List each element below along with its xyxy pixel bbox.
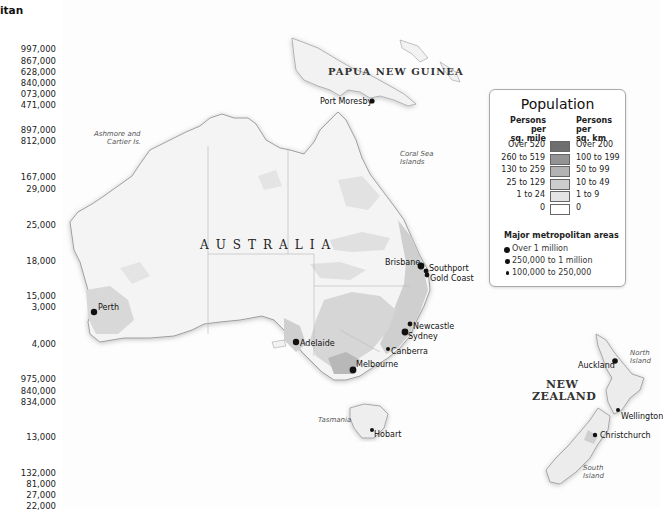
label-perth[interactable]: Perth [98,303,119,312]
table-value: 18,000 [26,256,56,266]
label-new-zealand-2: ZEALAND [532,390,596,403]
legend-class-mile: 0 [540,203,545,212]
table-value: 27,000 [26,490,56,500]
table-value: 81,000 [26,479,56,489]
label-auckland[interactable]: Auckland [578,361,615,370]
legend-class-km: 10 to 49 [576,178,609,187]
label-wellington[interactable]: Wellington [621,412,663,421]
new-britain-island [400,40,428,62]
table-value: 167,000 [21,172,56,182]
north-island-landmass [596,334,644,414]
legend-swatch [550,191,570,202]
label-adelaide[interactable]: Adelaide [300,339,335,348]
label-ashmore-1: Ashmore and [94,130,141,138]
label-australia: AUSTRALIA [200,238,337,252]
table-value: 812,000 [21,136,56,146]
table-value: 997,000 [21,44,56,54]
metro-dot-medium-icon [505,259,510,264]
legend-class-km: 1 to 9 [576,190,599,199]
table-header: itan [0,4,23,16]
city-dot-perth[interactable] [91,309,97,315]
legend-class-mile: Over 520 [508,140,545,149]
legend-class-mile: 260 to 519 [501,153,545,162]
label-coral-sea-1: Coral Sea [400,150,434,158]
legend-title: Population [490,96,625,112]
label-newcastle[interactable]: Newcastle [413,322,454,331]
label-north-island-2: Island [630,357,651,365]
legend-col-km-1: Persons per [576,116,625,134]
metro-population-table: itan 997,000 867,000 628,000 840,000 073… [0,0,62,508]
label-melbourne[interactable]: Melbourne [356,360,398,369]
city-dot-wellington[interactable] [616,408,620,412]
label-south-island-1: South [583,464,603,472]
metro-dot-small-icon [506,271,510,275]
table-value: 29,000 [26,184,56,194]
legend-col-km: Persons per sq. km [576,116,625,143]
table-value: 22,000 [26,501,56,511]
label-papua-new-guinea: PAPUA NEW GUINEA [328,66,464,77]
metro-dot-large-icon [504,247,510,253]
legend-metro-item: 250,000 to 1 million [512,256,592,265]
legend-swatch [550,179,570,190]
city-dot-southport[interactable] [424,269,429,274]
city-dot-canberra[interactable] [386,347,390,351]
legend-col-mile-1: Persons per [498,116,546,134]
legend-swatch [550,166,570,177]
city-dot-newcastle[interactable] [408,322,413,327]
legend-class-km: 100 to 199 [576,153,620,162]
table-value: 867,000 [21,56,56,66]
legend-metro-item: Over 1 million [512,244,568,253]
table-value: 15,000 [26,291,56,301]
legend-swatch [550,141,570,152]
table-value: 4,000 [32,339,56,349]
label-brisbane[interactable]: Brisbane [385,258,420,267]
label-ashmore-2: Cartier Is. [107,138,141,146]
table-value: 25,000 [26,220,56,230]
legend-swatch [550,204,570,215]
label-southport[interactable]: Southport [429,264,469,273]
legend-class-km: 0 [576,203,581,212]
legend-swatch [550,154,570,165]
kangaroo-island [272,340,286,348]
table-value: 840,000 [21,386,56,396]
city-dot-gold-coast[interactable] [425,273,430,278]
table-value: 840,000 [21,78,56,88]
table-value: 975,000 [21,374,56,384]
table-value: 132,000 [21,468,56,478]
legend-class-km: Over 200 [576,140,613,149]
legend-class-km: 50 to 99 [576,165,609,174]
label-christchurch[interactable]: Christchurch [600,431,651,440]
city-dot-christchurch[interactable] [593,433,597,437]
table-value: 073,000 [21,89,56,99]
table-value: 13,000 [26,432,56,442]
legend-class-mile: 25 to 129 [506,178,545,187]
table-value: 628,000 [21,67,56,77]
legend-metro-header: Major metropolitan areas [504,231,619,240]
label-port-moresby[interactable]: Port Moresby [320,97,372,106]
legend-class-mile: 130 to 259 [501,165,545,174]
label-south-island-2: Island [583,472,604,480]
legend-col-mile: Persons per sq. mile [498,116,546,143]
label-gold-coast[interactable]: Gold Coast [430,274,474,283]
label-canberra[interactable]: Canberra [391,347,428,356]
legend-class-mile: 1 to 24 [517,190,545,199]
table-value: 471,000 [21,100,56,110]
table-value: 897,000 [21,125,56,135]
city-dot-adelaide[interactable] [293,339,299,345]
label-north-island-1: North [630,349,650,357]
table-value: 834,000 [21,397,56,407]
label-tasmania: Tasmania [318,416,351,424]
legend-metro-item: 100,000 to 250,000 [512,268,591,277]
table-value: 3,000 [32,302,56,312]
label-coral-sea-2: Islands [400,158,424,166]
population-legend: Population Persons per sq. mile Persons … [489,89,626,287]
label-sydney[interactable]: Sydney [408,332,438,341]
label-hobart[interactable]: Hobart [374,430,401,439]
